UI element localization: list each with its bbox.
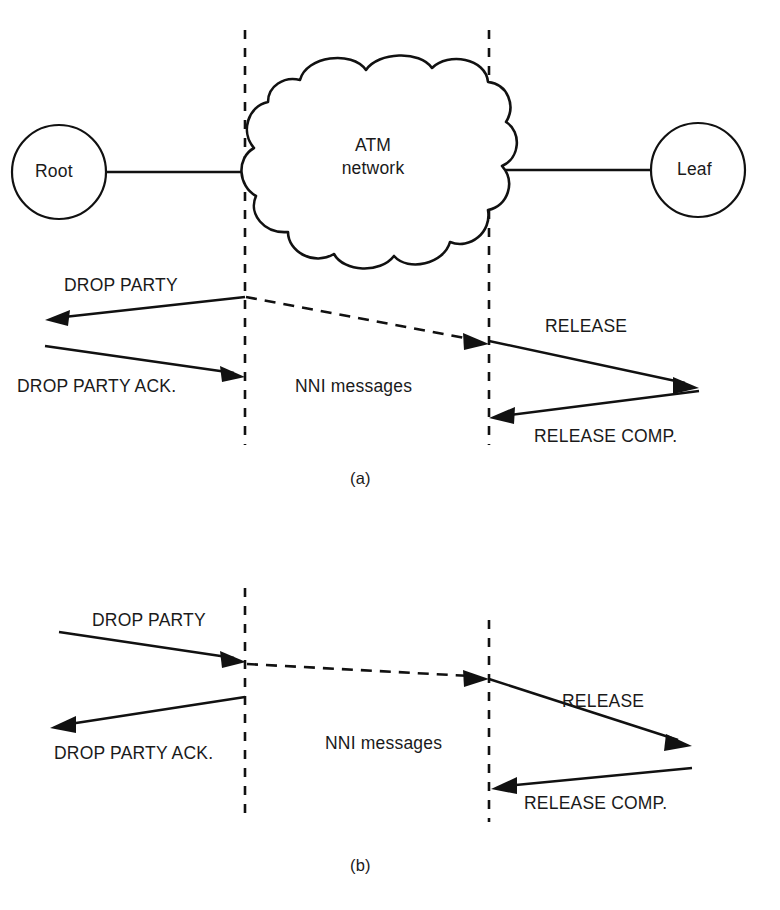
panel-a-label-drop-party-ack: DROP PARTY ACK. (17, 377, 176, 396)
panel-a-label-release: RELEASE (545, 317, 627, 336)
panel-a-root-label: Root (35, 162, 73, 181)
panel-a-arrow-drop-party (45, 297, 245, 326)
panel-a-arrow-release (489, 341, 699, 394)
panel-b-label-nni-messages: NNI messages (325, 734, 442, 753)
panel-b-label-release-comp: RELEASE COMP. (524, 794, 667, 813)
figure-root: Root Leaf ATM network DROP PARTY DROP PA… (0, 0, 780, 910)
panel-a-leaf-label: Leaf (677, 160, 712, 179)
panel-b-label-release: RELEASE (562, 692, 644, 711)
panel-a-arrow-release-comp (489, 391, 699, 424)
panel-b-arrow-drop-party (59, 632, 246, 668)
panel-a-label-nni-messages: NNI messages (295, 377, 412, 396)
panel-b-arrow-release (489, 679, 692, 751)
panel-b-arrow-nni-messages (247, 664, 489, 687)
panel-b-arrow-release-comp (491, 768, 692, 794)
panel-b-arrow-drop-party-ack (50, 697, 245, 733)
panel-a-cloud-label-line2: network (324, 157, 422, 179)
panel-a-label-release-comp: RELEASE COMP. (534, 427, 677, 446)
panel-b-label-drop-party-ack: DROP PARTY ACK. (54, 744, 213, 763)
panel-a-label-drop-party: DROP PARTY (64, 276, 178, 295)
panel-a-arrow-nni-messages (246, 297, 489, 350)
panel-a-cloud-label-line1: ATM (331, 134, 415, 156)
panel-a-caption: (a) (350, 469, 371, 488)
panel-b-label-drop-party: DROP PARTY (92, 611, 206, 630)
panel-b-caption: (b) (350, 856, 371, 875)
